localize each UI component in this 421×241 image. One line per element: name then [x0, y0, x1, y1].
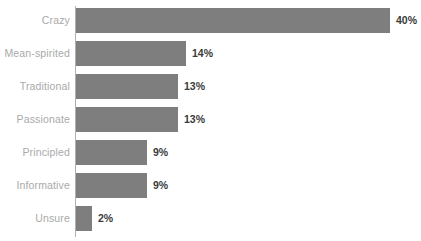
- category-label: Traditional: [0, 74, 70, 99]
- value-label: 13%: [184, 107, 205, 132]
- bar-row: Mean-spirited 14%: [0, 41, 421, 66]
- value-label: 2%: [98, 206, 113, 231]
- bar-row: Crazy 40%: [0, 8, 421, 33]
- bar-row: Principled 9%: [0, 140, 421, 165]
- category-label: Mean-spirited: [0, 41, 70, 66]
- category-label: Unsure: [0, 206, 70, 231]
- category-label: Informative: [0, 173, 70, 198]
- bar-principled: [76, 140, 147, 165]
- value-label: 9%: [153, 140, 168, 165]
- category-label: Principled: [0, 140, 70, 165]
- bar-unsure: [76, 206, 92, 231]
- bar-traditional: [76, 74, 178, 99]
- bar-row: Traditional 13%: [0, 74, 421, 99]
- bar-row: Informative 9%: [0, 173, 421, 198]
- bar-informative: [76, 173, 147, 198]
- horizontal-bar-chart: Crazy 40% Mean-spirited 14% Traditional …: [0, 0, 421, 241]
- category-label: Passionate: [0, 107, 70, 132]
- bar-row: Passionate 13%: [0, 107, 421, 132]
- bar-passionate: [76, 107, 178, 132]
- bar-row: Unsure 2%: [0, 206, 421, 231]
- value-label: 14%: [192, 41, 213, 66]
- value-label: 13%: [184, 74, 205, 99]
- category-label: Crazy: [0, 8, 70, 33]
- value-label: 9%: [153, 173, 168, 198]
- value-label: 40%: [396, 8, 417, 33]
- bar-crazy: [76, 8, 390, 33]
- bar-mean-spirited: [76, 41, 186, 66]
